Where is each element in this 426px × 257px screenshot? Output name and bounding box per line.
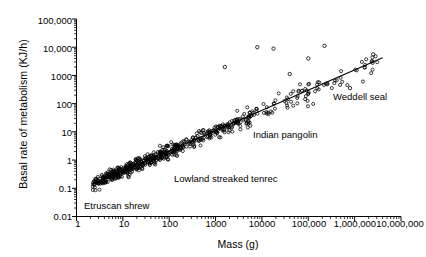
- data-point: [365, 58, 368, 61]
- data-point: [239, 128, 242, 131]
- data-point: [273, 107, 276, 110]
- data-point: [306, 105, 309, 108]
- data-point: [98, 188, 101, 191]
- data-point: [158, 144, 161, 147]
- data-point: [246, 106, 249, 109]
- data-point-outlier: [348, 86, 351, 89]
- data-point-outlier: [371, 53, 374, 56]
- data-point: [277, 92, 280, 95]
- data-point: [371, 68, 374, 71]
- data-point: [289, 92, 292, 95]
- data-point: [361, 80, 364, 83]
- y-axis-ticks: [72, 19, 77, 217]
- data-point: [239, 124, 242, 127]
- plot-area: [0, 0, 426, 257]
- data-point: [292, 90, 295, 93]
- data-point-outlier: [256, 46, 259, 49]
- data-point: [341, 80, 344, 83]
- data-point: [371, 56, 374, 59]
- data-point-outlier: [223, 65, 226, 68]
- data-point: [292, 104, 295, 107]
- data-point: [262, 103, 265, 106]
- data-point: [304, 95, 307, 98]
- data-point: [346, 84, 349, 87]
- data-point: [340, 70, 343, 73]
- data-point: [370, 72, 373, 75]
- data-point: [199, 144, 202, 147]
- scatter-points: [91, 44, 379, 192]
- data-point-outlier: [307, 57, 310, 60]
- data-point: [274, 99, 277, 102]
- data-point-outlier: [288, 72, 291, 75]
- figure-root: Basal rate of metabolism (KJ/h) 100,000 …: [0, 0, 426, 257]
- data-point-outlier: [323, 44, 326, 47]
- data-point: [314, 90, 317, 93]
- data-point: [339, 83, 342, 86]
- data-point: [360, 60, 363, 63]
- data-point: [312, 102, 315, 105]
- data-point: [236, 109, 239, 112]
- data-point: [290, 100, 293, 103]
- data-point: [246, 126, 249, 129]
- x-axis-ticks: [77, 217, 402, 222]
- data-point: [304, 98, 307, 101]
- data-point-outlier: [272, 47, 275, 50]
- data-point: [296, 102, 299, 105]
- regression-line: [92, 58, 382, 184]
- data-point: [330, 87, 333, 90]
- data-point: [298, 83, 301, 86]
